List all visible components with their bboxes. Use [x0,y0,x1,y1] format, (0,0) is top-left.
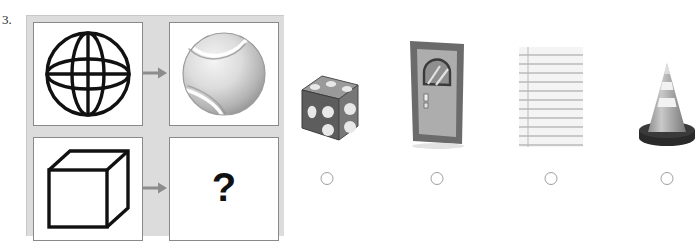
option-radio-die[interactable] [321,172,334,185]
question-number: 3. [2,12,12,28]
analogy-matrix: ? [26,15,284,236]
matrix-cell-wireframe-cube [33,137,143,241]
matrix-cell-wireframe-sphere [33,22,143,126]
option-radio-door[interactable] [431,172,444,185]
matrix-cell-tennis-ball [169,22,279,126]
option-traffic-cone[interactable] [619,14,699,219]
option-die[interactable] [279,14,375,219]
option-radio-lined-paper[interactable] [545,172,558,185]
door-icon [389,14,485,150]
question-mark-glyph: ? [212,167,236,211]
tennis-ball-icon [170,23,278,125]
die-icon [279,14,375,150]
arrow-right-icon-bottom [142,181,168,195]
option-door[interactable] [389,14,485,219]
wireframe-cube-icon [34,138,142,240]
wireframe-sphere-icon [34,23,142,125]
arrow-right-icon-top [142,66,168,80]
option-lined-paper[interactable] [503,14,599,219]
question-mark: ? [170,138,278,240]
traffic-cone-icon [619,14,699,150]
option-radio-traffic-cone[interactable] [661,172,674,185]
lined-paper-icon [503,14,599,150]
matrix-cell-answer-placeholder: ? [169,137,279,241]
